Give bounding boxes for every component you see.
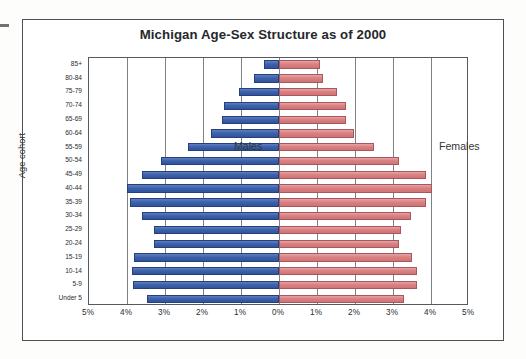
bar-row [89, 251, 467, 265]
bar-male [154, 226, 279, 234]
x-axis-tick-labels: 5%4%3%2%1%0%1%2%3%4%5% [88, 308, 468, 324]
bar-rows [89, 58, 467, 304]
bar-female [279, 60, 320, 68]
x-axis-tick-label: 4% [413, 308, 447, 317]
x-axis-tick-label: 0% [261, 308, 295, 317]
bar-row [89, 182, 467, 196]
bar-female [279, 88, 337, 96]
bar-row [89, 154, 467, 168]
series-label-females: Females [439, 140, 480, 152]
y-axis-tick-label: Under 5 [2, 294, 82, 301]
bar-row [89, 99, 467, 113]
series-label-males: Males [234, 140, 262, 152]
bar-female [279, 143, 374, 151]
bar-female [279, 129, 354, 137]
bar-male [211, 129, 279, 137]
bar-male [142, 171, 279, 179]
x-axis-tick-label: 5% [71, 308, 105, 317]
bar-female [279, 240, 399, 248]
bar-row [89, 141, 467, 155]
y-axis-tick-label: 40-44 [2, 184, 82, 191]
bar-female [279, 102, 346, 110]
bar-row [89, 127, 467, 141]
y-axis-tick-label: 80-84 [2, 74, 82, 81]
bar-female [279, 267, 417, 275]
bar-female [279, 212, 411, 220]
bar-male [130, 198, 279, 206]
bar-row [89, 292, 467, 306]
bar-female [279, 171, 426, 179]
x-axis-tick-label: 1% [299, 308, 333, 317]
bar-female [279, 74, 323, 82]
y-axis-tick-label: 5-9 [2, 280, 82, 287]
bar-male [254, 74, 279, 82]
y-axis-tick-label: 20-24 [2, 239, 82, 246]
bar-male [134, 253, 279, 261]
bar-female [279, 226, 401, 234]
y-axis-tick-label: 70-74 [2, 101, 82, 108]
bar-row [89, 168, 467, 182]
bar-row [89, 210, 467, 224]
y-axis-tick-label: 30-34 [2, 211, 82, 218]
x-axis-tick-label: 2% [337, 308, 371, 317]
y-axis-tick-label: 10-14 [2, 267, 82, 274]
bar-male [132, 267, 279, 275]
y-axis-tick-label: 55-59 [2, 143, 82, 150]
chart-title: Michigan Age-Sex Structure as of 2000 [0, 27, 526, 42]
bar-female [279, 184, 432, 192]
bar-male [133, 281, 279, 289]
bar-male [161, 157, 279, 165]
y-axis-tick-label: 65-69 [2, 115, 82, 122]
y-axis-tick-label: 15-19 [2, 253, 82, 260]
x-axis-tick-label: 3% [375, 308, 409, 317]
y-axis-tick-label: 25-29 [2, 225, 82, 232]
bar-male [264, 60, 279, 68]
y-axis-tick-label: 75-79 [2, 87, 82, 94]
bar-male [224, 102, 279, 110]
bar-female [279, 281, 417, 289]
x-axis-tick-label: 4% [109, 308, 143, 317]
plot-area: Males Females [88, 57, 468, 305]
x-axis-tick-label: 3% [147, 308, 181, 317]
x-axis-tick-label: 1% [223, 308, 257, 317]
bar-row [89, 113, 467, 127]
bar-row [89, 58, 467, 72]
bar-female [279, 116, 346, 124]
bar-row [89, 86, 467, 100]
bar-female [279, 295, 404, 303]
y-axis-tick-label: 45-49 [2, 170, 82, 177]
bar-male [147, 295, 279, 303]
y-axis-tick-label: 85+ [2, 60, 82, 67]
bar-row [89, 196, 467, 210]
bar-row [89, 223, 467, 237]
bar-male [127, 184, 279, 192]
y-axis-tick-label: 35-39 [2, 198, 82, 205]
bar-row [89, 265, 467, 279]
bar-male [222, 116, 279, 124]
y-axis-tick-label: 60-64 [2, 129, 82, 136]
bar-row [89, 278, 467, 292]
bar-male [142, 212, 279, 220]
y-axis-tick-label: 50-54 [2, 156, 82, 163]
bar-female [279, 198, 426, 206]
bar-male [154, 240, 279, 248]
x-axis-tick-label: 5% [451, 308, 485, 317]
bar-male [239, 88, 279, 96]
bar-female [279, 157, 399, 165]
bar-row [89, 237, 467, 251]
x-axis-tick-label: 2% [185, 308, 219, 317]
bar-female [279, 253, 412, 261]
y-axis-tick-labels: 85+80-8475-7970-7465-6960-6455-5950-5445… [0, 57, 86, 305]
bar-row [89, 72, 467, 86]
